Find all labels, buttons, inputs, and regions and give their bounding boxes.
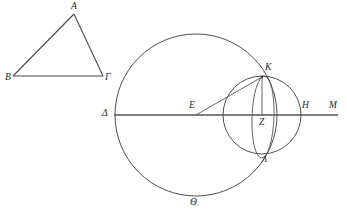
geometry-canvas (0, 0, 347, 219)
label-point-m: M (329, 101, 337, 111)
label-point-delta: Δ (102, 109, 108, 119)
label-point-z: Z (259, 118, 264, 128)
label-point-h: H (302, 101, 309, 111)
label-point-a: A (71, 2, 77, 12)
geometry-figure: A B Γ Δ E Z H K Λ Θ M (0, 0, 347, 219)
label-point-lambda: Λ (262, 155, 267, 164)
point-marker-k (261, 76, 263, 78)
label-point-theta: Θ (190, 198, 197, 208)
label-point-k: K (265, 63, 271, 73)
triangle-abg (13, 14, 103, 76)
triangle-side-ab (13, 14, 74, 76)
triangle-side-ag (74, 14, 103, 76)
label-point-b: B (5, 73, 11, 83)
label-point-gamma: Γ (105, 73, 110, 83)
label-point-e: E (189, 101, 195, 111)
